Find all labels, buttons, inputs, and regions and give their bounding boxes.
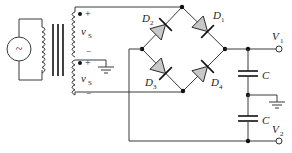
v1-label: V	[272, 30, 280, 42]
capacitor-top	[238, 49, 258, 95]
source-bottom-wire	[19, 61, 42, 80]
primary-coil	[42, 27, 45, 73]
winding1-plus: +	[85, 8, 91, 19]
secondary-top-wire	[75, 7, 182, 12]
capacitor-bottom	[238, 95, 258, 141]
node-bottom	[181, 89, 185, 93]
v1-terminal	[276, 46, 282, 52]
v2-terminal	[276, 138, 282, 144]
d4-label: D	[210, 76, 219, 88]
ac-source-symbol: ~	[16, 42, 23, 56]
d2-subscript: 2	[150, 19, 154, 27]
polarity-dot-bottom	[78, 61, 82, 65]
capacitor-bottom-label: C	[262, 114, 270, 126]
secondary-coil-top	[72, 12, 75, 57]
transformer-core	[53, 24, 63, 76]
ac-source: ~	[7, 19, 42, 80]
v2-subscript: 2	[280, 130, 284, 138]
d3-subscript: 3	[153, 83, 157, 91]
cap-bottom-node	[246, 139, 250, 143]
d2-label: D	[141, 12, 150, 24]
polarity-dot-top	[78, 12, 82, 16]
d4-subscript: 4	[219, 83, 223, 91]
winding1-minus: −	[86, 46, 91, 56]
v2-label: V	[272, 123, 280, 135]
circuit-diagram: ~ + v S − + v S −	[0, 0, 292, 153]
winding2-plus: +	[85, 57, 91, 68]
secondary-coil-bottom	[72, 60, 75, 95]
v1-subscript: 1	[280, 37, 284, 45]
winding1-subscript: S	[88, 32, 92, 40]
winding1-label: v	[81, 25, 86, 37]
d3-label: D	[144, 76, 153, 88]
d1-subscript: 1	[221, 16, 225, 24]
node-top	[180, 5, 184, 9]
d1-label: D	[212, 9, 221, 21]
winding2-subscript: S	[88, 79, 92, 87]
winding2-label: v	[81, 72, 86, 84]
winding2-minus: −	[86, 88, 91, 98]
capacitor-top-label: C	[262, 69, 270, 81]
mid-ground	[248, 95, 285, 108]
source-top-wire	[19, 19, 42, 37]
left-node-wire	[129, 49, 142, 141]
